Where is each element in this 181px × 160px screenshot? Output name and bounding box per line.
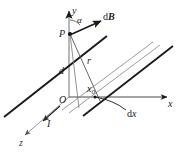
axis-group: [25, 11, 167, 135]
current-arrow-group: [43, 106, 60, 121]
db-vector-label: dB: [103, 12, 115, 22]
angle-alpha-label: α: [77, 16, 82, 25]
dx-element-label: dx: [127, 109, 136, 119]
point-x0-subscript: 0: [91, 88, 95, 96]
db-symbol-B: B: [108, 11, 115, 22]
origin-label: O: [59, 95, 66, 105]
conductor-group: [4, 36, 173, 117]
main-conductor-line: [4, 36, 107, 117]
point-x0-marker: [94, 96, 97, 99]
current-label: I: [47, 119, 50, 129]
point-P-marker: [68, 32, 72, 36]
z-axis-label: z: [19, 138, 23, 148]
strip-current-line: [83, 46, 173, 116]
y-axis-label: y: [72, 6, 76, 16]
x-axis-label: x: [168, 99, 172, 109]
db-vector-group: [70, 20, 101, 34]
physics-figure: y x z O P x0 d r α dB I dx: [0, 0, 181, 160]
point-P-label: P: [59, 29, 65, 39]
length-r-label: r: [87, 56, 91, 66]
length-d-label: d: [59, 66, 64, 76]
figure-canvas: [0, 0, 181, 160]
current-direction-arrow: [43, 106, 60, 121]
point-x0-label: x0: [87, 84, 95, 96]
dx-symbol-x: x: [132, 108, 136, 119]
